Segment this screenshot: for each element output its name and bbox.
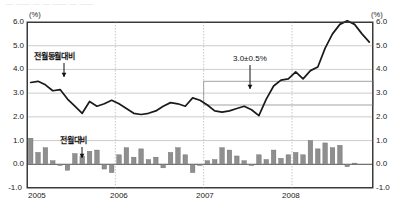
y-tick-right-0: 0.0 [376,160,400,168]
y-tick-left-2: 2.0 [2,113,24,121]
y-tick-left-1: 1.0 [2,137,24,145]
y-tick-right-1: 1.0 [376,137,400,145]
inflation-chart: — —— — — —— — —— (%) (%) 6.0 5.0 4.0 3.0… [0,0,402,211]
y-tick-right-2: 2.0 [376,113,400,121]
yoy-series-label: 전월동월대비 [34,52,75,61]
y-tick-right-3: 3.0 [376,89,400,97]
y-tick-left-6: 6.0 [2,18,24,26]
plot-area [27,22,373,188]
target-band-label: 3.0±0.5% [233,54,267,63]
y-axis-unit-left: (%) [29,10,41,19]
y-tick-left-0: 0.0 [2,160,24,168]
mom-series-label: 전월대비 [60,136,87,145]
x-tick-2006: 2006 [110,192,128,200]
x-tick-2008: 2008 [282,192,300,200]
y-tick-right-neg1: -1.0 [376,184,400,192]
x-tick-2007: 2007 [196,192,214,200]
y-tick-left-neg1: -1.0 [0,184,22,192]
y-tick-right-6: 6.0 [376,18,400,26]
y-tick-left-3: 3.0 [2,89,24,97]
y-tick-right-4: 4.0 [376,65,400,73]
y-tick-left-5: 5.0 [2,42,24,50]
x-tick-2005: 2005 [28,192,46,200]
y-tick-right-5: 5.0 [376,42,400,50]
y-tick-left-4: 4.0 [2,65,24,73]
cutoff-header-text: — —— — — —— — —— [6,0,266,8]
